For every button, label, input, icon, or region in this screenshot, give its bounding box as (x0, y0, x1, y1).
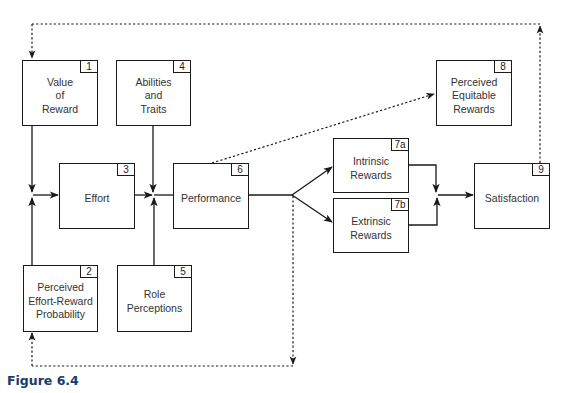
box-number: 7b (391, 198, 409, 211)
box-satisfaction: 9 Satisfaction (474, 163, 550, 229)
box-perceived-equitable-rewards: 8 Perceived Equitable Rewards (436, 60, 512, 126)
box-label: Role Perceptions (127, 282, 182, 315)
box-role-perceptions: 5 Role Perceptions (117, 265, 192, 332)
diagram-canvas: 1 Value of Reward 4 Abilities and Traits… (0, 0, 568, 393)
figure-caption: Figure 6.4 (7, 373, 79, 388)
box-label: Perceived Equitable Rewards (451, 70, 498, 117)
box-extrinsic-rewards: 7b Extrinsic Rewards (333, 198, 409, 253)
box-number: 6 (231, 163, 249, 176)
box-label: Performance (181, 186, 241, 206)
box-number: 1 (80, 60, 98, 73)
box-label: Abilities and Traits (135, 70, 171, 117)
box-number: 2 (80, 265, 98, 278)
box-label: Satisfaction (485, 186, 539, 206)
box-effort: 3 Effort (59, 163, 135, 229)
box-performance: 6 Performance (173, 163, 249, 229)
arrow-intrinsic-to-satisfaction-junction (408, 165, 436, 192)
box-intrinsic-rewards: 7a Intrinsic Rewards (333, 138, 409, 193)
box-label: Intrinsic Rewards (350, 149, 391, 182)
box-number: 7a (391, 138, 409, 151)
arrow-split-to-intrinsic (292, 167, 332, 195)
box-number: 5 (174, 265, 192, 278)
box-label: Effort (85, 186, 110, 206)
box-number: 8 (494, 60, 512, 73)
box-value-of-reward: 1 Value of Reward (22, 60, 98, 126)
box-number: 3 (117, 163, 135, 176)
box-label: Value of Reward (42, 70, 78, 117)
arrow-extrinsic-to-satisfaction-junction (408, 198, 437, 225)
box-label: Perceived Effort-Reward Probability (28, 275, 93, 322)
box-abilities-and-traits: 4 Abilities and Traits (116, 60, 191, 126)
box-perceived-effort-reward-probability: 2 Perceived Effort-Reward Probability (23, 265, 98, 332)
box-number: 4 (173, 60, 191, 73)
box-number: 9 (532, 163, 550, 176)
box-label: Extrinsic Rewards (350, 209, 391, 242)
arrow-split-to-extrinsic (292, 195, 332, 222)
